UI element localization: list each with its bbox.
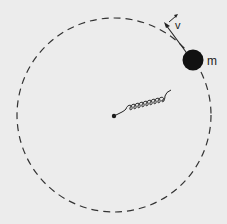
circular-motion-diagram: v m [0, 0, 227, 224]
mass-label: m [207, 54, 217, 68]
background [0, 0, 227, 224]
velocity-label: v [175, 19, 181, 31]
mass-ball [183, 50, 204, 71]
